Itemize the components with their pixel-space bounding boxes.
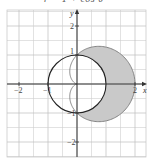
y-tick-label: −2 bbox=[67, 138, 76, 147]
polar-plot: xy−2−1221−1−2 bbox=[0, 0, 153, 164]
x-tick-label: −1 bbox=[43, 86, 52, 95]
x-axis-label: x bbox=[142, 86, 147, 95]
x-tick-label: −2 bbox=[14, 86, 23, 95]
x-tick-label: 2 bbox=[133, 86, 137, 95]
y-tick-label: 1 bbox=[70, 47, 74, 56]
y-tick-label: −1 bbox=[67, 109, 76, 118]
y-tick-label: 2 bbox=[70, 22, 74, 31]
y-axis-label: y bbox=[69, 9, 74, 18]
